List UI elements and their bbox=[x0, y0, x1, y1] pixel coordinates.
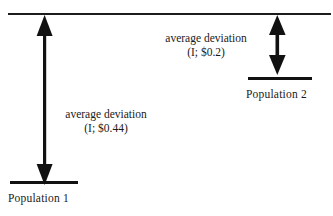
deviation-annotation-population-2-line2: (I; $0.2) bbox=[148, 45, 264, 59]
deviation-annotation-population-1: average deviation (I; $0.44) bbox=[48, 107, 164, 135]
population-1-bar bbox=[10, 181, 78, 184]
deviation-annotation-population-2-line1: average deviation bbox=[165, 32, 246, 44]
deviation-arrow-population-2 bbox=[267, 14, 289, 76]
deviation-annotation-population-2: average deviation (I; $0.2) bbox=[148, 31, 264, 59]
deviation-diagram: Population 1 Population 2 average deviat… bbox=[0, 0, 333, 216]
deviation-arrow-population-1 bbox=[33, 14, 57, 186]
population-2-label: Population 2 bbox=[246, 88, 307, 101]
deviation-annotation-population-1-line2: (I; $0.44) bbox=[48, 121, 164, 135]
deviation-annotation-population-1-line1: average deviation bbox=[65, 108, 146, 120]
population-1-label: Population 1 bbox=[8, 192, 69, 205]
population-2-bar bbox=[248, 77, 312, 80]
